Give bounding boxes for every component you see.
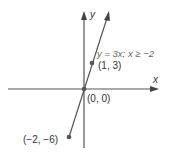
point-neg2-neg6	[67, 135, 72, 140]
point-origin	[82, 87, 87, 92]
x-axis-arrow-icon	[150, 86, 159, 92]
y-axis-label: y	[89, 9, 96, 20]
y-axis-arrow-icon	[81, 11, 87, 20]
function-line	[69, 18, 107, 137]
line-arrow-icon	[104, 11, 110, 21]
x-axis-label: x	[152, 74, 159, 85]
equation-label: y = 3x; x ≥ −2	[96, 48, 155, 59]
point-label-neg2-neg6: (−2, −6)	[23, 134, 58, 145]
chart-canvas: y x y = 3x; x ≥ −2 (1, 3) (0, 0) (−2, −6…	[0, 0, 172, 153]
point-label-1-3: (1, 3)	[98, 60, 121, 71]
point-label-origin: (0, 0)	[87, 93, 110, 104]
point-1-3	[90, 61, 95, 66]
